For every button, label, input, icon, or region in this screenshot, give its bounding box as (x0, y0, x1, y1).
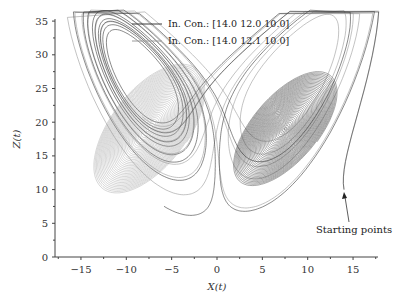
y-tick-label: 5 (42, 218, 48, 229)
x-tick-label: −10 (116, 264, 137, 275)
y-tick-label: 15 (35, 150, 48, 161)
y-axis-title: Z(t) (11, 130, 22, 150)
y-tick-label: 0 (42, 252, 48, 263)
x-tick-label: −15 (70, 264, 91, 275)
legend-label-series-1: In. Con.: [14.0 12.0 10.0] (168, 18, 289, 29)
x-tick-label: −5 (164, 264, 179, 275)
y-tick-label: 20 (35, 117, 48, 128)
x-axis-ticks: −15−10−5051015 (58, 257, 375, 275)
y-tick-label: 25 (35, 83, 48, 94)
legend-label-series-2: In. Con.: [14.0 12.1 10.0] (168, 35, 289, 46)
lorenz-attractor-chart: −15−10−5051015 05101520253035 X(t) Z(t) … (0, 0, 397, 308)
x-axis-title: X(t) (207, 281, 227, 292)
annotation-label: Starting points (316, 224, 392, 235)
x-tick-label: 5 (259, 264, 265, 275)
y-tick-label: 35 (35, 16, 48, 27)
starting-points-annotation: Starting points (316, 192, 392, 235)
x-tick-label: 0 (214, 264, 220, 275)
x-tick-label: 15 (347, 264, 360, 275)
y-tick-label: 30 (35, 49, 48, 60)
annotation-arrow-line (345, 197, 349, 222)
y-axis-ticks: 05101520253035 (35, 16, 55, 263)
x-tick-label: 10 (301, 264, 314, 275)
annotation-arrowhead-icon (342, 192, 347, 199)
y-tick-label: 10 (35, 184, 48, 195)
series-1-right-lobe-spiral (234, 72, 337, 186)
